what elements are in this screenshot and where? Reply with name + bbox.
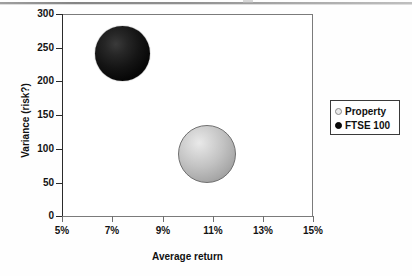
x-tick-label-15: 15% <box>293 226 333 236</box>
x-axis-line <box>62 216 314 217</box>
filled-circle-marker-icon <box>335 122 342 129</box>
x-tick-label-9: 9% <box>143 226 183 236</box>
y-tick-300 <box>56 14 62 15</box>
x-tick-label-7: 7% <box>92 226 132 236</box>
legend-item-ftse-100[interactable]: FTSE 100 <box>335 118 399 132</box>
y-tick-250 <box>56 48 62 49</box>
open-circle-marker-icon <box>335 108 342 115</box>
y-tick-50 <box>56 183 62 184</box>
scan-artifact-speck <box>243 0 253 3</box>
y-tick-label-0: 0 <box>14 211 54 221</box>
y-axis-title: Variance (risk?) <box>20 31 31 211</box>
x-tick-11 <box>213 216 214 222</box>
ftse-100-bubble[interactable] <box>95 26 150 81</box>
y-axis-line <box>62 14 63 217</box>
bubble-chart-figure: 300 250 200 150 100 50 0 5% 7% 9% 11% 13… <box>0 0 412 276</box>
legend-item-property[interactable]: Property <box>335 104 399 118</box>
property-bubble[interactable] <box>178 125 236 183</box>
x-tick-label-13: 13% <box>243 226 283 236</box>
x-tick-label-11: 11% <box>193 226 233 236</box>
x-tick-9 <box>163 216 164 222</box>
y-tick-150 <box>56 115 62 116</box>
x-tick-13 <box>263 216 264 222</box>
y-tick-label-300: 300 <box>14 9 54 19</box>
x-axis-title: Average return <box>62 251 313 262</box>
y-tick-200 <box>56 81 62 82</box>
x-tick-7 <box>112 216 113 222</box>
x-tick-15 <box>313 216 314 222</box>
x-tick-5 <box>62 216 63 222</box>
scan-artifact-line-secondary <box>0 4 412 5</box>
y-tick-100 <box>56 149 62 150</box>
legend-label-property: Property <box>345 106 386 117</box>
x-tick-label-5: 5% <box>42 226 82 236</box>
legend-label-ftse-100: FTSE 100 <box>345 120 390 131</box>
chart-legend: Property FTSE 100 <box>330 100 400 135</box>
